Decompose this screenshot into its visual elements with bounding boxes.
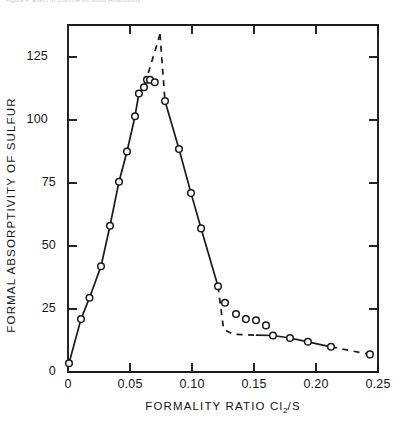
axis-ticks: [68, 25, 378, 372]
data-point: [132, 113, 139, 120]
data-point: [215, 283, 222, 290]
x-tick-label-0: 0: [38, 377, 98, 391]
data-curves: [69, 34, 370, 363]
data-point: [367, 351, 374, 358]
data-point: [222, 299, 229, 306]
data-point: [107, 223, 114, 230]
data-point: [243, 316, 250, 323]
data-point: [305, 339, 312, 346]
y-tick-label-50: 50: [16, 238, 56, 252]
x-tick-label-005: 0.05: [100, 377, 160, 391]
data-point: [116, 178, 123, 185]
data-point: [162, 98, 169, 105]
data-point: [66, 360, 73, 367]
data-point: [188, 190, 195, 197]
y-tick-label-0: 0: [16, 364, 56, 378]
y-tick-label-100: 100: [8, 112, 48, 126]
x-axis-title-tail: /S: [288, 400, 301, 412]
x-axis-title-subscript: 2: [283, 406, 287, 415]
x-tick-label-015: 0.15: [224, 377, 284, 391]
data-point: [233, 311, 240, 318]
data-point: [152, 79, 159, 86]
data-point: [78, 316, 85, 323]
y-tick-label-25: 25: [16, 301, 56, 315]
x-axis-title: FORMALITY RATIO Cl2/S: [68, 400, 378, 412]
x-axis-title-base: FORMALITY RATIO Cl: [145, 400, 283, 412]
data-point: [86, 294, 93, 301]
data-point: [270, 332, 277, 339]
x-tick-label-010: 0.10: [162, 377, 222, 391]
data-point: [287, 335, 294, 342]
data-markers: [66, 76, 374, 366]
plot-canvas: [0, 0, 407, 430]
data-point: [136, 90, 143, 97]
data-point: [198, 225, 205, 232]
data-point: [141, 84, 148, 91]
axes-frame: [68, 25, 378, 372]
x-tick-label-025: 0.25: [348, 377, 407, 391]
data-point: [253, 317, 260, 324]
data-point: [328, 344, 335, 351]
data-point: [98, 263, 105, 270]
x-tick-label-020: 0.20: [286, 377, 346, 391]
data-point: [263, 322, 270, 329]
y-tick-label-125: 125: [8, 49, 48, 63]
figure-container: Figure 4. Effect of Chlorine on Sulfur A…: [0, 0, 407, 430]
top-caption: Figure 4. Effect of Chlorine on Sulfur A…: [6, 0, 306, 7]
data-point: [176, 146, 183, 153]
data-point: [124, 148, 131, 155]
y-tick-label-75: 75: [16, 175, 56, 189]
